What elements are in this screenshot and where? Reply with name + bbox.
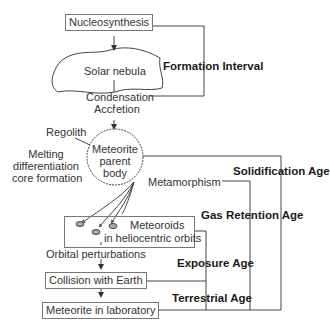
melting-label-1: Melting bbox=[12, 148, 80, 160]
melting-label-2: differentiation bbox=[12, 160, 80, 172]
gas-retention-age-label: Gas Retention Age bbox=[201, 209, 303, 221]
melting-label-3: core formation bbox=[12, 172, 80, 184]
collision-box: Collision with Earth bbox=[45, 272, 147, 289]
exposure-age-label: Exposure Age bbox=[177, 257, 254, 269]
laboratory-box: Meteorite in laboratory bbox=[42, 302, 159, 319]
parent-body-label-1: Meteorite bbox=[88, 143, 142, 155]
meteoroids-label-2: in heliocentric orbits bbox=[104, 232, 201, 244]
solidification-age-label: Solidification Age bbox=[233, 165, 330, 177]
meteoroids-label-1: Meteoroids bbox=[130, 219, 184, 231]
condensation-label: Condensation bbox=[86, 91, 154, 103]
nucleosynthesis-box: Nucleosynthesis bbox=[65, 14, 153, 31]
parent-body-label-3: body bbox=[88, 167, 142, 179]
accretion-label: Accretion bbox=[94, 103, 140, 115]
metamorphism-label: Metamorphism bbox=[148, 176, 221, 188]
parent-body-label-2: parent bbox=[88, 155, 142, 167]
orbital-perturbations-label: Orbital perturbations bbox=[46, 248, 146, 260]
solar-nebula-label: Solar nebula bbox=[84, 65, 146, 77]
formation-interval-label: Formation Interval bbox=[163, 60, 263, 72]
regolith-label: Regolith bbox=[46, 126, 86, 138]
terrestrial-age-label: Terrestrial Age bbox=[172, 292, 252, 304]
